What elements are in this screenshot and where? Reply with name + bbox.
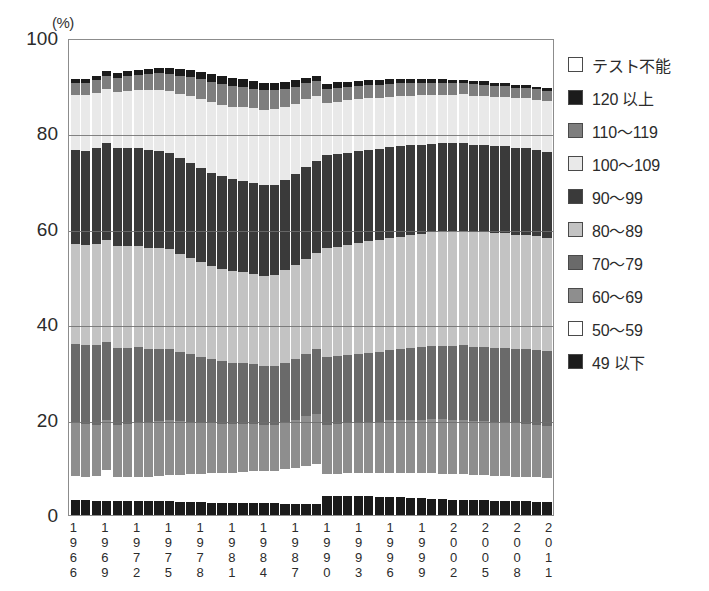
- bar-segment-le49: [113, 501, 122, 515]
- bar-1980: [217, 40, 226, 515]
- bar-segment-le49: [511, 501, 520, 515]
- bar-segment-untestable: [238, 40, 247, 79]
- bar-segment-r100_109: [312, 96, 321, 161]
- bar-segment-ge120: [217, 76, 226, 84]
- bar-segment-r80_89: [406, 235, 415, 348]
- bar-segment-r90_99: [207, 173, 216, 266]
- bar-2005: [479, 40, 488, 515]
- bar-1972: [134, 40, 143, 515]
- bar-2002: [448, 40, 457, 515]
- bar-segment-r90_99: [71, 150, 80, 244]
- bar-segment-r50_59: [92, 476, 101, 501]
- bar-segment-r90_99: [396, 146, 405, 236]
- bar-1996: [385, 40, 394, 515]
- y-axis-tick-label: 20: [37, 410, 58, 432]
- bar-segment-r80_89: [500, 233, 509, 347]
- bar-segment-r110_119: [113, 78, 122, 92]
- bar-segment-r50_59: [249, 471, 258, 502]
- bar-segment-r80_89: [301, 259, 310, 354]
- legend: テスト不能120 以上110～119100～10990～9980～8970～79…: [568, 48, 706, 378]
- bar-segment-r100_109: [123, 91, 132, 148]
- bar-segment-r100_109: [438, 95, 447, 143]
- legend-swatch-icon: [568, 288, 583, 303]
- x-axis-tick-label: 1966: [66, 520, 80, 580]
- bar-segment-untestable: [438, 40, 447, 79]
- bar-segment-r50_59: [511, 477, 520, 502]
- bar-segment-r100_109: [113, 92, 122, 148]
- bar-segment-r100_109: [259, 110, 268, 185]
- bar-segment-r60_69: [542, 426, 551, 478]
- bar-segment-r70_79: [196, 357, 205, 423]
- legend-swatch-icon: [568, 156, 583, 171]
- bar-segment-untestable: [542, 40, 551, 88]
- bar-segment-le49: [175, 502, 184, 515]
- bar-segment-r60_69: [448, 420, 457, 475]
- bar-2011: [542, 40, 551, 515]
- y-axis-tick-label: 60: [37, 219, 58, 241]
- bar-segment-r50_59: [490, 476, 499, 501]
- x-axis-tick-label: 1996: [383, 520, 397, 580]
- bar-segment-r50_59: [385, 473, 394, 497]
- bar-segment-r100_109: [165, 91, 174, 153]
- bar-1985: [270, 40, 279, 515]
- bar-segment-untestable: [343, 40, 352, 82]
- bar-1989: [312, 40, 321, 515]
- bar-segment-r110_119: [333, 88, 342, 102]
- bar-segment-le49: [102, 501, 111, 515]
- bar-segment-r110_119: [438, 83, 447, 95]
- bar-segment-r60_69: [469, 421, 478, 475]
- bar-segment-r110_119: [490, 86, 499, 97]
- x-axis-tick-label: 1987: [288, 520, 302, 580]
- bar-segment-r50_59: [396, 473, 405, 498]
- bar-segment-untestable: [102, 40, 111, 71]
- bar-segment-r90_99: [500, 146, 509, 233]
- bar-1970: [113, 40, 122, 515]
- bar-segment-r100_109: [102, 89, 111, 143]
- bar-segment-r60_69: [249, 424, 258, 471]
- x-axis-tick-label: 1990: [320, 520, 334, 580]
- bar-segment-untestable: [123, 40, 132, 71]
- bar-segment-ge120: [228, 78, 237, 86]
- bar-segment-untestable: [134, 40, 143, 69]
- bar-segment-le49: [217, 503, 226, 515]
- legend-item: テスト不能: [568, 48, 706, 81]
- bar-segment-r60_69: [228, 424, 237, 472]
- bar-segment-r70_79: [406, 348, 415, 419]
- bar-segment-r80_89: [542, 238, 551, 351]
- legend-item-label: 90～99: [592, 185, 643, 209]
- bar-1967: [81, 40, 90, 515]
- bar-segment-r90_99: [165, 153, 174, 250]
- bar-segment-r90_99: [228, 179, 237, 271]
- bar-segment-untestable: [196, 40, 205, 72]
- bar-segment-r60_69: [270, 425, 279, 471]
- bar-segment-r50_59: [364, 473, 373, 497]
- legend-item-label: 80～89: [592, 218, 643, 242]
- bar-segment-r80_89: [144, 248, 153, 349]
- bar-segment-r80_89: [532, 236, 541, 350]
- bar-segment-r80_89: [92, 244, 101, 345]
- bar-segment-r100_109: [500, 97, 509, 146]
- bar-segment-r90_99: [459, 143, 468, 231]
- bar-segment-r90_99: [375, 149, 384, 240]
- legend-swatch-icon: [568, 57, 583, 72]
- bar-segment-r60_69: [165, 420, 174, 475]
- bar-segment-r50_59: [301, 466, 310, 504]
- bar-segment-r60_69: [406, 420, 415, 473]
- bar-segment-r80_89: [123, 246, 132, 348]
- bar-segment-ge120: [280, 82, 289, 89]
- bar-segment-le49: [438, 499, 447, 515]
- bar-segment-r90_99: [521, 148, 530, 234]
- bar-segment-untestable: [490, 40, 499, 83]
- bar-segment-r50_59: [354, 473, 363, 496]
- bar-segment-le49: [71, 500, 80, 515]
- bar-segment-r60_69: [312, 414, 321, 464]
- bar-segment-r70_79: [92, 345, 101, 425]
- bar-segment-r80_89: [154, 248, 163, 349]
- bar-segment-le49: [417, 498, 426, 515]
- bar-segment-r110_119: [364, 85, 373, 98]
- bar-segment-r50_59: [500, 476, 509, 501]
- bar-segment-r70_79: [113, 348, 122, 425]
- bar-2010: [532, 40, 541, 515]
- bar-segment-r50_59: [479, 475, 488, 500]
- bar-segment-r90_99: [113, 148, 122, 245]
